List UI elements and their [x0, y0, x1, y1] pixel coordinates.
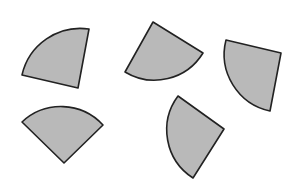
sector-shape-1 [22, 28, 89, 88]
sector-shape-3 [224, 40, 281, 111]
sector-shape-2 [125, 22, 203, 80]
diagram-canvas [0, 0, 296, 188]
sector-shape-5 [167, 96, 224, 178]
sector-shape-4 [22, 107, 103, 163]
